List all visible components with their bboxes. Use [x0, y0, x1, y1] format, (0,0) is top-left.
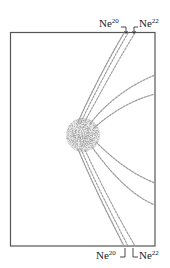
label-element: Ne — [139, 249, 152, 261]
trace-lower-ne20 — [78, 149, 124, 246]
trace-lower-right-2 — [92, 147, 155, 205]
trace-lower-ne22 — [85, 150, 135, 246]
label-top-ne22: Ne22 — [139, 18, 159, 29]
label-top-ne20: Ne20 — [99, 18, 119, 29]
label-element: Ne — [139, 17, 152, 29]
label-bottom-ne22: Ne22 — [139, 250, 159, 261]
label-mass-number: 22 — [152, 249, 159, 257]
label-mass-number: 20 — [109, 249, 116, 257]
trace-lower-right-1 — [96, 142, 155, 183]
trace-upper-ne22 — [85, 33, 135, 121]
label-bottom-ne20: Ne20 — [96, 250, 116, 261]
central-spot — [66, 118, 100, 152]
label-element: Ne — [99, 17, 112, 29]
label-mass-number: 20 — [112, 17, 119, 25]
trace-upper-right-1 — [90, 75, 155, 124]
trace-upper-right-2 — [94, 94, 155, 128]
label-element: Ne — [96, 249, 109, 261]
pointer-bottom-ne20 — [120, 248, 125, 257]
trace-upper-ne20 — [78, 33, 124, 122]
label-pointers-bottom — [120, 248, 138, 257]
pointer-bottom-ne22 — [133, 248, 138, 257]
label-mass-number: 22 — [152, 17, 159, 25]
parabola-diagram — [0, 0, 170, 268]
